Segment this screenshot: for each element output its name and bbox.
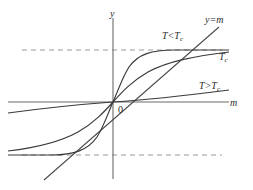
curve-above-tc-label-subscript: c xyxy=(217,85,220,93)
curve-below-tc-label-main: T<T xyxy=(162,30,180,41)
y-axis-label: y xyxy=(110,9,114,19)
curve-above-tc-label-main: T>T xyxy=(199,80,217,91)
curve-at-tc-label-subscript: c xyxy=(225,56,228,64)
m-axis-label: m xyxy=(230,98,237,108)
curve-below-tc-label: T<Tc xyxy=(162,31,183,43)
magnetization-figure: y y=m T<Tc Tc T>Tc m 0 xyxy=(0,0,253,190)
curve-at-tc-label: Tc xyxy=(219,52,228,64)
curve-above-tc-label: T>Tc xyxy=(199,81,220,93)
plot-canvas xyxy=(0,0,253,190)
identity-line-label: y=m xyxy=(205,15,223,25)
origin-label: 0 xyxy=(118,105,123,115)
curve-below-tc-label-subscript: c xyxy=(180,35,183,43)
